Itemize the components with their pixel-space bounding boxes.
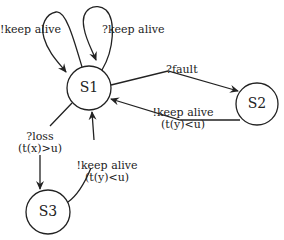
edge-label-s3-to-s1-guard: (t(y)<u): [72, 172, 142, 184]
edge-label-s1-to-s3-guard: (t(x)>u): [10, 143, 70, 155]
node-s3-label: S3: [33, 203, 63, 219]
edge-label-s1-to-s3: ?loss (t(x)>u): [10, 131, 70, 155]
edge-s3-to-s1: [68, 112, 94, 202]
edge-label-s1-self-left: !keep alive: [0, 24, 61, 36]
edge-label-s3-to-s1: !keep alive (t(y)<u): [72, 160, 142, 184]
edge-label-s2-to-s1-guard: (t(y)<u): [143, 119, 223, 131]
node-s1-label: S1: [74, 79, 104, 95]
edge-s1-self-left: [43, 12, 82, 72]
state-diagram: S1 S2 S3 !keep alive ?keep alive ?fault …: [0, 0, 284, 240]
edge-label-s1-self-right: ?keep alive: [102, 24, 164, 36]
edge-label-s2-to-s1: !keep alive (t(y)<u): [143, 107, 223, 131]
node-s2-label: S2: [242, 95, 272, 111]
edge-s1-self-right: [83, 7, 112, 70]
edge-label-s1-to-s2: ?fault: [166, 64, 198, 76]
